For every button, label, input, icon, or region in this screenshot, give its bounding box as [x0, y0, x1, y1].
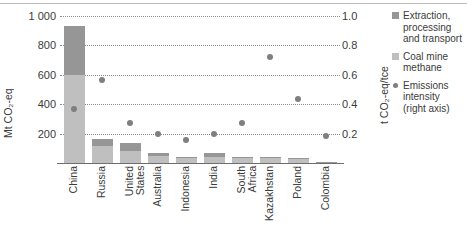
bar-segment-coal-mine-methane[interactable] [120, 151, 141, 163]
right-axis-title: t CO₂-eq/tce [378, 14, 390, 124]
legend: Extraction, processing and transportCoal… [392, 10, 467, 120]
bar-segment-extraction-processing-transport[interactable] [260, 157, 281, 158]
legend-item[interactable]: Coal mine methane [392, 51, 467, 74]
legend-square-icon [392, 53, 399, 60]
left-tick-label: 800 [10, 40, 56, 51]
legend-dot-icon [393, 83, 398, 88]
x-axis-label-colombia: Colombia [320, 166, 331, 210]
bar-segment-extraction-processing-transport[interactable] [232, 157, 253, 158]
x-axis-label-south-africa: South Africa [236, 166, 258, 193]
bar-segment-extraction-processing-transport[interactable] [204, 153, 225, 158]
top-divider [0, 3, 467, 4]
x-axis-label-united-states: United States [124, 166, 146, 196]
bar-segment-extraction-processing-transport[interactable] [176, 157, 197, 158]
legend-item[interactable]: Extraction, processing and transport [392, 10, 467, 45]
emissions-intensity-point[interactable] [211, 131, 217, 137]
emissions-intensity-point[interactable] [267, 54, 273, 60]
right-tick-label: 0.8 [342, 40, 372, 51]
bar-segment-extraction-processing-transport[interactable] [120, 143, 141, 151]
bar-segment-extraction-processing-transport[interactable] [92, 139, 113, 146]
x-axis-label-poland: Poland [292, 166, 303, 199]
plot-area [60, 16, 340, 163]
left-tick-label: 200 [10, 129, 56, 140]
left-tick-label: 1 000 [10, 11, 56, 22]
legend-square-icon [392, 12, 399, 19]
right-axis-tick-labels: 1.00.80.60.40.2 [342, 0, 372, 230]
x-axis-label-russia: Russia [96, 166, 107, 198]
x-axis-label-kazakhstan: Kazakhstan [264, 166, 275, 221]
bar-segment-extraction-processing-transport[interactable] [288, 158, 309, 159]
x-axis-label-australia: Australia [152, 166, 163, 207]
right-tick-label: 0.6 [342, 70, 372, 81]
x-axis-label-china: China [68, 166, 79, 193]
gridline [60, 75, 340, 76]
emissions-intensity-point[interactable] [71, 106, 77, 112]
bar-segment-coal-mine-methane[interactable] [92, 146, 113, 163]
left-tick-label: 400 [10, 99, 56, 110]
bar-segment-extraction-processing-transport[interactable] [64, 26, 85, 75]
left-axis-tick-labels: 1 000800600400200 [10, 0, 56, 230]
emissions-intensity-point[interactable] [323, 133, 329, 139]
bar-segment-coal-mine-methane[interactable] [64, 75, 85, 163]
legend-item-label: Emissions intensity (right axis) [403, 80, 450, 115]
emissions-intensity-point[interactable] [155, 131, 161, 137]
emissions-intensity-point[interactable] [295, 96, 301, 102]
legend-item-label: Coal mine methane [403, 51, 448, 74]
bar-column[interactable] [204, 153, 225, 163]
bar-segment-coal-mine-methane[interactable] [148, 156, 169, 163]
x-axis-line [57, 163, 344, 164]
bar-column[interactable] [148, 153, 169, 163]
gridline [60, 104, 340, 105]
legend-item[interactable]: Emissions intensity (right axis) [392, 80, 467, 115]
bar-column[interactable] [120, 143, 141, 163]
chart-figure: Mt CO₂-eq t CO₂-eq/tce 1 000800600400200… [0, 0, 467, 230]
emissions-intensity-point[interactable] [183, 137, 189, 143]
x-axis-category-labels: ChinaRussiaUnited StatesAustraliaIndones… [60, 166, 340, 230]
x-axis-label-india: India [208, 166, 219, 189]
bar-column[interactable] [64, 26, 85, 163]
right-tick-label: 0.2 [342, 129, 372, 140]
legend-item-label: Extraction, processing and transport [403, 10, 462, 45]
right-tick-label: 0.4 [342, 99, 372, 110]
gridline [60, 45, 340, 46]
gridline [60, 16, 340, 17]
left-tick-label: 600 [10, 70, 56, 81]
bar-column[interactable] [92, 139, 113, 163]
x-axis-label-indonesia: Indonesia [180, 166, 191, 212]
right-tick-label: 1.0 [342, 11, 372, 22]
emissions-intensity-point[interactable] [99, 77, 105, 83]
bar-segment-extraction-processing-transport[interactable] [148, 153, 169, 157]
emissions-intensity-point[interactable] [127, 120, 133, 126]
gridline [60, 134, 340, 135]
emissions-intensity-point[interactable] [239, 120, 245, 126]
